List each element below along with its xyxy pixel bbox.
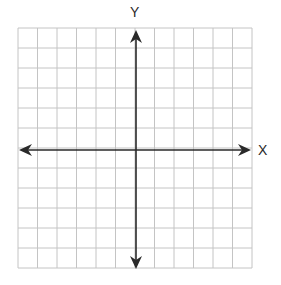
x-axis-label: X <box>258 142 267 158</box>
grid-lines <box>18 28 252 268</box>
coordinate-plane <box>0 0 281 285</box>
y-axis-label: Y <box>130 4 139 20</box>
